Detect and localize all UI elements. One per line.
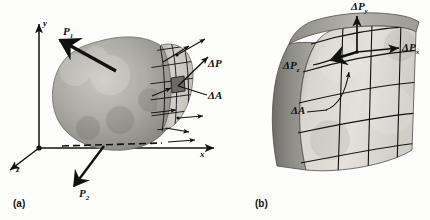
delta-py-subscript: y — [365, 7, 368, 14]
caption-panel-b: (b) — [255, 198, 268, 209]
delta-pz-symbol: ΔP — [283, 59, 297, 71]
delta-py-symbol: ΔP — [351, 0, 365, 12]
delta-px-symbol: ΔP — [402, 41, 416, 53]
delta-p-label-a: ΔP — [208, 58, 222, 69]
applied-force-p1-label: P1 — [63, 26, 73, 40]
delta-pz-subscript: z — [297, 66, 300, 73]
caption-panel-a: (a) — [13, 198, 25, 209]
delta-a-cell-a — [171, 76, 185, 93]
applied-force-p2-label: P2 — [79, 188, 89, 202]
panel-b — [272, 13, 420, 176]
p1-subscript: 1 — [70, 32, 73, 39]
p2-symbol: P — [79, 187, 86, 199]
delta-a-label-a: ΔA — [208, 90, 222, 101]
delta-py-label: ΔPy — [351, 1, 368, 15]
axis-label-x: x — [200, 150, 205, 159]
axis-label-z: z — [16, 165, 20, 174]
delta-px-subscript: x — [416, 48, 419, 55]
delta-px-label: ΔPx — [402, 42, 419, 56]
axis-label-y: y — [43, 19, 47, 28]
origin-point — [36, 145, 41, 150]
delta-a-label-b: ΔA — [291, 105, 305, 116]
delta-pz-label: ΔPz — [283, 60, 299, 74]
p1-symbol: P — [63, 25, 70, 37]
p2-subscript: 2 — [86, 194, 89, 201]
